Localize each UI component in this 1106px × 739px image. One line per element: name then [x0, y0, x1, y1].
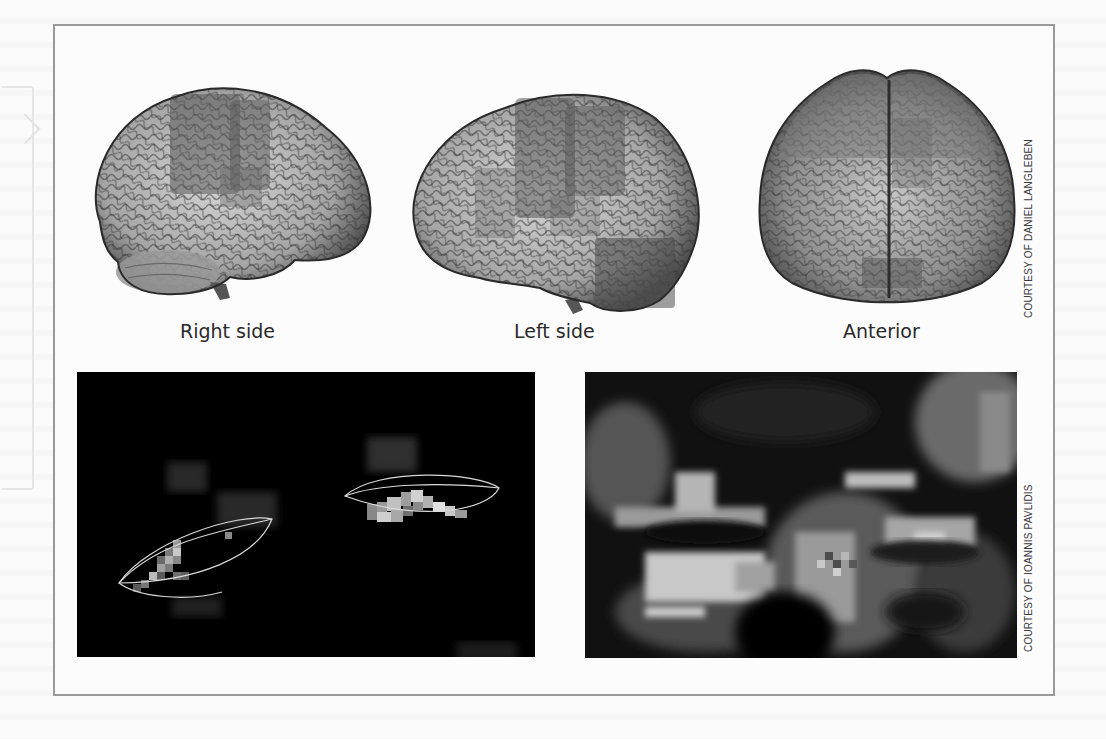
credit-langleben: COURTESY OF DANIEL LANGLEBEN: [1023, 139, 1034, 318]
page-edge-artifact: [2, 86, 34, 490]
caption-anterior: Anterior: [843, 320, 920, 342]
thermal-face-panel: [585, 372, 1017, 658]
thermal-scan-panel: [77, 372, 535, 657]
brain-right-side-image: [80, 72, 380, 308]
credit-pavlidis: COURTESY OF IOANNIS PAVLIDIS: [1023, 484, 1034, 652]
brain-anterior-image: [752, 58, 1022, 308]
caption-left-side: Left side: [514, 320, 595, 342]
brain-left-side-image: [405, 78, 710, 314]
caption-right-side: Right side: [180, 320, 275, 342]
